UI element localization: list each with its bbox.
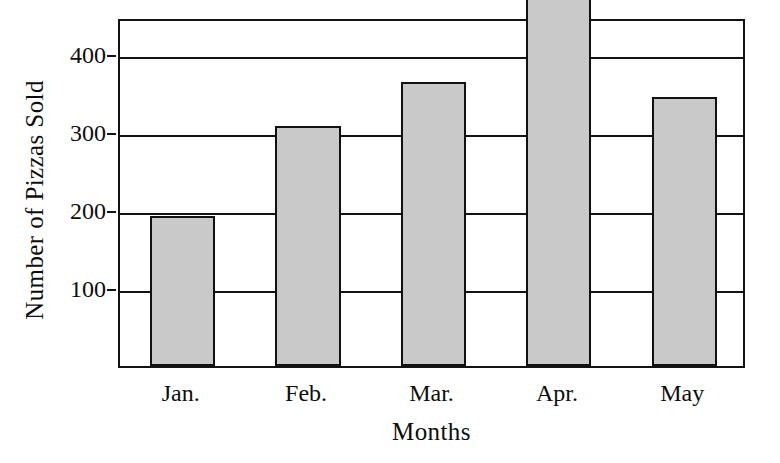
y-axis-tick-mark [107, 55, 116, 57]
y-axis-tick-mark [107, 133, 116, 135]
x-axis-tick-label: May [620, 378, 745, 408]
y-axis-tick-mark [107, 211, 116, 213]
bar [275, 126, 340, 366]
plot-area [118, 19, 745, 368]
y-axis-tick-mark [107, 289, 116, 291]
y-axis-tick-label: 200 [46, 199, 106, 223]
gridline [120, 57, 743, 59]
x-axis-tick-label: Jan. [118, 378, 243, 408]
bar [150, 216, 215, 366]
bar [652, 97, 717, 366]
bar [401, 82, 466, 366]
bar [526, 0, 591, 366]
bar-chart-figure: Number of Pizzas Sold 400300200100 Jan.F… [0, 0, 780, 463]
y-axis-tick-label: 300 [46, 121, 106, 145]
x-axis-tick-label: Feb. [243, 378, 368, 408]
x-axis-tick-label: Mar. [369, 378, 494, 408]
x-axis-title: Months [118, 418, 745, 446]
x-axis-tick-labels: Jan.Feb.Mar.Apr.May [118, 378, 745, 412]
x-axis-tick-label: Apr. [494, 378, 619, 408]
y-axis-tick-label: 400 [46, 43, 106, 67]
y-axis-tick-label: 100 [46, 277, 106, 301]
y-axis-tick-labels: 400300200100 [44, 0, 106, 463]
